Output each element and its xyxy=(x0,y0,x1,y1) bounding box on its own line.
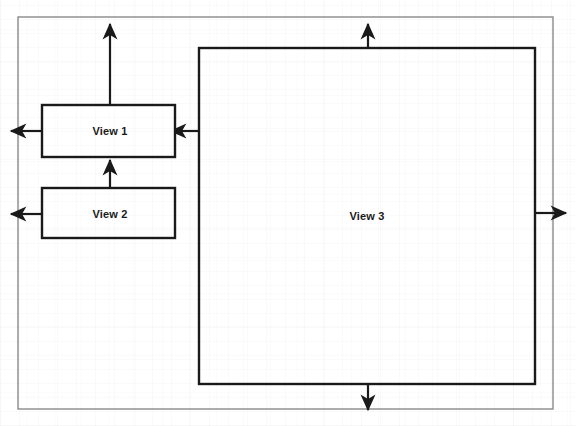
node-layer xyxy=(42,48,535,384)
node-box-view3 xyxy=(199,48,535,384)
diagram-svg xyxy=(0,0,576,426)
diagram-canvas: View 1View 2View 3 xyxy=(0,0,576,426)
node-box-view1 xyxy=(42,105,175,157)
node-box-view2 xyxy=(42,188,175,238)
